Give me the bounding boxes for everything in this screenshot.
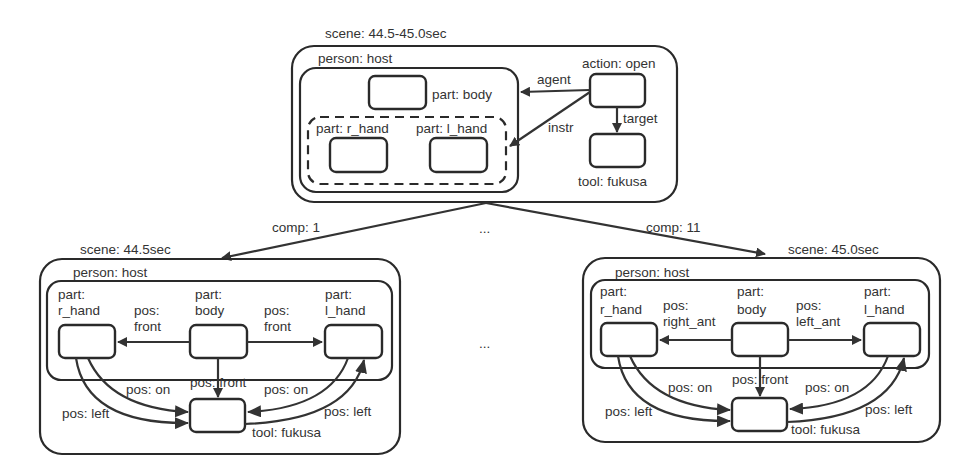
right-scene: scene: 45.0sec person: host part: r_hand… — [583, 242, 940, 442]
left-body-label-2: body — [195, 303, 225, 318]
edge-agent — [521, 90, 590, 92]
left-pos-lhand-2: front — [264, 319, 291, 334]
right-pos-lhand-1: pos: — [796, 298, 822, 313]
left-person-label: person: host — [73, 265, 148, 280]
left-pos-rhand-2: front — [134, 319, 161, 334]
left-pos-r-on: pos: on — [126, 382, 170, 397]
comp-left-label: comp: 1 — [272, 220, 320, 235]
right-r-hand-label-2: r_hand — [600, 302, 642, 317]
right-pos-body-tool: pos: front — [732, 372, 789, 387]
left-pos-rhand-1: pos: — [134, 303, 160, 318]
right-pos-l-on: pos: on — [805, 380, 849, 395]
top-scene: scene: 44.5-45.0sec person: host part: b… — [292, 26, 677, 202]
right-body-label-1: part: — [737, 284, 764, 299]
comp-right-label: comp: 11 — [646, 220, 701, 235]
top-action-node — [590, 74, 645, 107]
left-r-hand-label-1: part: — [58, 287, 85, 302]
left-r-hand-label-2: r_hand — [58, 303, 100, 318]
right-l-hand-label-1: part: — [864, 284, 891, 299]
ellipsis-top: ... — [479, 221, 490, 236]
left-pos-r-left: pos: left — [62, 406, 110, 421]
left-tool-label: tool: fukusa — [252, 425, 322, 440]
right-scene-label: scene: 45.0sec — [788, 242, 879, 257]
top-tool-node — [590, 134, 645, 167]
top-body-label: part: body — [432, 87, 492, 102]
right-body-label-2: body — [737, 302, 767, 317]
left-scene: scene: 44.5sec person: host part: r_hand… — [40, 242, 400, 454]
ellipsis-middle: ... — [479, 336, 490, 351]
edge-agent-label: agent — [537, 72, 571, 87]
edge-target-label: target — [623, 111, 658, 126]
right-tool-node — [732, 398, 787, 431]
top-r-hand-node — [330, 138, 387, 172]
right-person-label: person: host — [615, 265, 690, 280]
top-person-label: person: host — [318, 51, 393, 66]
left-scene-label: scene: 44.5sec — [80, 242, 171, 257]
right-pos-l-left: pos: left — [865, 402, 913, 417]
edge-instr-label: instr — [548, 120, 574, 135]
left-l-hand-label-2: l_hand — [325, 303, 366, 318]
right-pos-rhand-2: right_ant — [663, 314, 716, 329]
left-pos-l-on: pos: on — [264, 382, 308, 397]
right-pos-lhand-2: left_ant — [796, 314, 841, 329]
scene-graph-diagram: scene: 44.5-45.0sec person: host part: b… — [0, 0, 972, 465]
top-r-hand-label: part: r_hand — [316, 121, 389, 136]
right-tool-label: tool: fukusa — [791, 422, 861, 437]
top-body-node — [369, 76, 426, 109]
top-l-hand-label: part: l_hand — [416, 121, 487, 136]
edge-instr — [510, 92, 590, 146]
right-r-hand-node — [601, 323, 657, 356]
left-pos-l-left: pos: left — [324, 404, 372, 419]
right-pos-r-on: pos: on — [668, 380, 712, 395]
left-pos-body-tool: pos: front — [190, 375, 247, 390]
top-action-label: action: open — [582, 56, 656, 71]
left-r-hand-node — [59, 325, 115, 358]
top-scene-label: scene: 44.5-45.0sec — [325, 26, 447, 41]
left-body-node — [190, 325, 247, 358]
right-pos-r-left: pos: left — [605, 404, 653, 419]
right-l-hand-node — [864, 323, 920, 356]
right-pos-rhand-1: pos: — [663, 298, 689, 313]
right-r-hand-label-1: part: — [600, 284, 627, 299]
top-l-hand-node — [430, 138, 487, 172]
left-body-label-1: part: — [195, 287, 222, 302]
right-body-node — [732, 323, 788, 356]
comp-edge-left — [222, 203, 486, 258]
right-l-hand-label-2: l_hand — [864, 302, 905, 317]
comp-edge-right — [486, 203, 765, 254]
left-tool-node — [190, 399, 245, 432]
left-pos-lhand-1: pos: — [264, 303, 290, 318]
left-l-hand-label-1: part: — [325, 287, 352, 302]
left-l-hand-node — [325, 325, 382, 358]
top-tool-label: tool: fukusa — [578, 174, 648, 189]
